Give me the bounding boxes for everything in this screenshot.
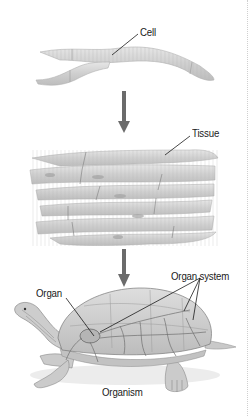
down-arrow-cell-to-tissue [118,91,130,133]
label-organ-system: Organ system [171,270,229,282]
label-organism: Organism [102,386,143,398]
down-arrow-tissue-to-organism [118,249,130,287]
tissue-illustration [30,136,218,246]
muscle-cell-branch [36,62,110,85]
label-tissue: Tissue [192,127,219,139]
cell-illustration [36,34,214,85]
page-edge-divider [247,0,248,416]
levels-of-organization-diagram: Cell Tissue Organ Organ system Organism [0,0,249,416]
label-organ: Organ [36,287,62,299]
turtle-shell [58,288,211,355]
label-cell: Cell [140,26,156,38]
